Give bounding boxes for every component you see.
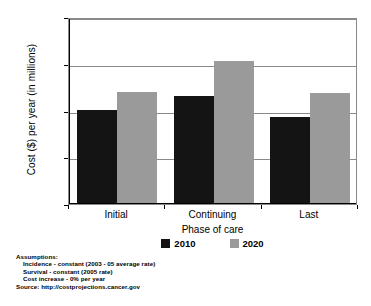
footnote-line-3: Cost increase - 0% per year: [16, 275, 155, 282]
x-tick-label-continuing: Continuing: [164, 209, 260, 220]
legend-swatch-2010: [161, 239, 170, 248]
legend-item-2020[interactable]: 2020: [230, 239, 264, 248]
gridline-80000: [69, 19, 356, 20]
footnote-source: Source: http://costprojections.cancer.go…: [16, 283, 155, 290]
plot-area: [68, 18, 357, 205]
x-tick-mark-0: [68, 205, 69, 209]
x-tick-mark-1: [164, 205, 165, 209]
bar-initial-2010[interactable]: [77, 110, 117, 204]
footnote-heading: Assumptions:: [16, 253, 155, 260]
gridline-60000: [69, 66, 356, 67]
legend: 2010 2020: [68, 239, 357, 248]
bar-chart: Cost ($) per year (in millions) 020,0004…: [0, 0, 371, 306]
legend-label-2010: 2010: [174, 239, 195, 248]
bar-last-2020[interactable]: [310, 93, 350, 204]
footnote-line-1: Incidence - constant (2003 - 05 average …: [16, 260, 155, 267]
bar-initial-2020[interactable]: [117, 92, 157, 204]
x-tick-mark-2: [261, 205, 262, 209]
footnotes: Assumptions: Incidence - constant (2003 …: [16, 253, 155, 290]
bar-continuing-2010[interactable]: [174, 96, 214, 204]
bar-last-2010[interactable]: [270, 117, 310, 204]
legend-label-2020: 2020: [243, 239, 264, 248]
x-axis-line: [69, 203, 356, 204]
x-tick-label-last: Last: [261, 209, 357, 220]
footnote-line-2: Survival - constant (2005 rate): [16, 268, 155, 275]
x-axis-title: Phase of care: [68, 224, 357, 235]
y-axis-line: [69, 19, 70, 204]
x-tick-label-initial: Initial: [68, 209, 164, 220]
legend-swatch-2020: [230, 239, 239, 248]
legend-item-2010[interactable]: 2010: [161, 239, 195, 248]
y-axis-title: Cost ($) per year (in millions): [26, 25, 37, 195]
bar-continuing-2020[interactable]: [214, 61, 254, 204]
x-tick-mark-3: [357, 205, 358, 209]
